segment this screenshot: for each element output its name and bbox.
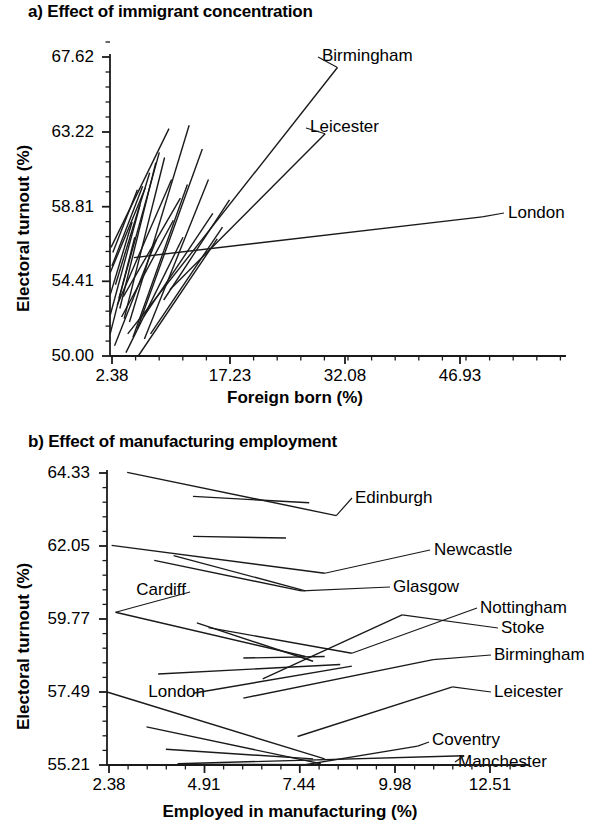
leader-london <box>482 213 504 217</box>
panel-a-data-lines <box>110 68 482 356</box>
slope-line-city-b2 <box>193 536 286 538</box>
slope-line-newcastle <box>112 545 325 573</box>
panel-b-plot-area <box>0 420 607 831</box>
panel-a: a) Effect of immigrant concentration Ele… <box>0 0 607 420</box>
slope-line-london <box>107 692 325 759</box>
slope-line-city-01 <box>111 129 169 248</box>
slope-line-city-24 <box>164 200 230 300</box>
leader-leicester <box>306 128 325 134</box>
slope-line-nottingham <box>208 628 351 654</box>
leader-nottingham <box>352 608 477 653</box>
slope-line-london <box>134 217 482 258</box>
slope-line-coventry <box>305 746 417 765</box>
figure-two-panel-slope-plots: a) Effect of immigrant concentration Ele… <box>0 0 607 831</box>
slope-line-city-22 <box>144 213 213 317</box>
leader-glasgow <box>301 587 390 591</box>
panel-b-data-lines <box>107 472 464 764</box>
slope-line-city-06 <box>137 149 202 329</box>
slope-line-glasgow <box>154 560 301 590</box>
slope-line-city-10 <box>144 180 208 340</box>
slope-line-city-b9 <box>166 749 313 759</box>
panel-b: b) Effect of manufacturing employment El… <box>0 420 607 831</box>
slope-line-edinburgh <box>127 472 336 515</box>
slope-line-birmingham <box>243 660 433 698</box>
leader-cardiff <box>116 592 190 612</box>
leader-coventry <box>418 742 429 746</box>
leader-birmingham <box>318 57 337 68</box>
leader-leicester <box>453 687 491 692</box>
leader-edinburgh <box>336 498 352 516</box>
slope-line-leicester <box>298 687 453 737</box>
slope-line-city-b5 <box>243 656 324 658</box>
leader-newcastle <box>325 550 430 573</box>
slope-line-city-b3 <box>174 556 306 591</box>
leader-stoke <box>402 615 498 628</box>
panel-a-plot-area <box>0 0 607 420</box>
panel-a-axes <box>102 42 566 364</box>
leader-birmingham <box>433 655 491 660</box>
slope-line-leicester <box>170 134 325 290</box>
slope-line-city-20 <box>110 188 145 273</box>
panel-b-axes <box>99 470 530 773</box>
leader-manchester <box>455 756 464 762</box>
slope-line-city-b4 <box>197 623 313 661</box>
slope-line-city-b7 <box>193 666 352 693</box>
